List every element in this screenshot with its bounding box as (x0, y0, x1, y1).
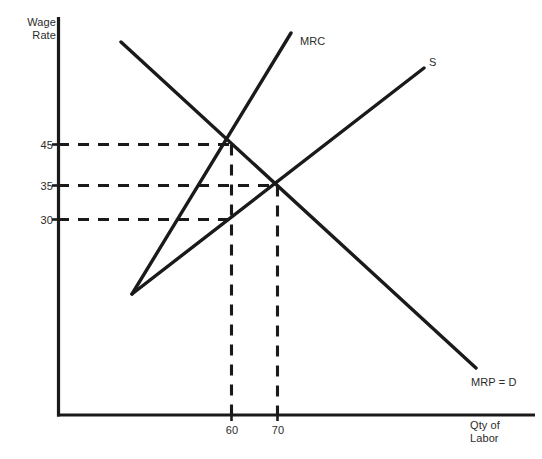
y-axis-title-line2: Rate (32, 29, 56, 41)
y-axis-title: WageRate (18, 16, 56, 41)
curve-group (121, 33, 476, 368)
x-axis-title: Qty ofLabor (470, 419, 530, 444)
y-tick-label-30: 30 (31, 214, 53, 227)
mrp-demand-curve (121, 42, 476, 368)
y-tick-label-35: 35 (31, 180, 53, 193)
demand-curve-label: MRP = D (471, 376, 516, 389)
x-axis-title-line1: Qty of (470, 419, 500, 431)
diagram-canvas (0, 0, 542, 459)
monopsony-labor-market-diagram: WageRate Qty ofLabor 45 35 30 60 70 MRC … (0, 0, 542, 459)
x-axis-title-line2: Labor (470, 432, 499, 444)
y-axis-title-line1: Wage (27, 16, 56, 28)
guide-lines (58, 145, 278, 416)
supply-curve (132, 68, 424, 294)
x-tick-label-70: 70 (266, 424, 290, 437)
supply-curve-label: S (429, 56, 436, 69)
mrc-curve-label: MRC (300, 35, 325, 48)
x-tick-label-60: 60 (220, 424, 244, 437)
y-tick-label-45: 45 (31, 139, 53, 152)
